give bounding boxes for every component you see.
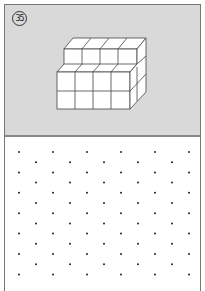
grid-dot bbox=[52, 171, 54, 173]
grid-dot bbox=[120, 212, 122, 214]
grid-dot bbox=[18, 253, 20, 255]
grid-dot bbox=[18, 192, 20, 194]
grid-dot bbox=[137, 182, 139, 184]
grid-dot bbox=[35, 202, 37, 204]
grid-dot bbox=[69, 263, 71, 265]
grid-dot bbox=[188, 151, 190, 153]
grid-dot bbox=[171, 263, 173, 265]
cube-figure bbox=[0, 0, 205, 291]
grid-dot bbox=[171, 161, 173, 163]
grid-dot bbox=[154, 253, 156, 255]
grid-dot bbox=[120, 233, 122, 235]
grid-dot bbox=[188, 171, 190, 173]
grid-dot bbox=[171, 182, 173, 184]
grid-dot bbox=[154, 171, 156, 173]
grid-dot bbox=[103, 263, 105, 265]
grid-dot bbox=[103, 161, 105, 163]
grid-dot bbox=[154, 273, 156, 275]
grid-dot bbox=[86, 273, 88, 275]
grid-dot bbox=[18, 233, 20, 235]
grid-dot bbox=[103, 182, 105, 184]
grid-dot bbox=[86, 253, 88, 255]
dot-grid bbox=[18, 151, 190, 275]
grid-dot bbox=[103, 202, 105, 204]
grid-dot bbox=[188, 273, 190, 275]
grid-dot bbox=[35, 222, 37, 224]
grid-dot bbox=[86, 171, 88, 173]
grid-dot bbox=[18, 171, 20, 173]
grid-dot bbox=[103, 222, 105, 224]
grid-dot bbox=[52, 192, 54, 194]
grid-dot bbox=[52, 233, 54, 235]
grid-dot bbox=[137, 202, 139, 204]
grid-dot bbox=[18, 273, 20, 275]
grid-dot bbox=[35, 161, 37, 163]
grid-dot bbox=[69, 243, 71, 245]
grid-dot bbox=[154, 192, 156, 194]
grid-dot bbox=[154, 151, 156, 153]
grid-dot bbox=[120, 273, 122, 275]
grid-dot bbox=[171, 202, 173, 204]
grid-dot bbox=[103, 243, 105, 245]
grid-dot bbox=[35, 263, 37, 265]
grid-dot bbox=[69, 222, 71, 224]
grid-dot bbox=[35, 243, 37, 245]
grid-dot bbox=[35, 182, 37, 184]
grid-dot bbox=[52, 151, 54, 153]
grid-dot bbox=[52, 253, 54, 255]
grid-dot bbox=[171, 222, 173, 224]
grid-dot bbox=[188, 233, 190, 235]
grid-dot bbox=[120, 171, 122, 173]
grid-dot bbox=[137, 222, 139, 224]
grid-dot bbox=[69, 161, 71, 163]
grid-dot bbox=[52, 212, 54, 214]
grid-dot bbox=[120, 253, 122, 255]
grid-dot bbox=[18, 151, 20, 153]
grid-dot bbox=[154, 233, 156, 235]
grid-dot bbox=[188, 192, 190, 194]
grid-dot bbox=[69, 202, 71, 204]
grid-dot bbox=[18, 212, 20, 214]
grid-dot bbox=[120, 151, 122, 153]
grid-dot bbox=[86, 192, 88, 194]
grid-dot bbox=[137, 161, 139, 163]
grid-dot bbox=[69, 182, 71, 184]
grid-dot bbox=[86, 212, 88, 214]
grid-dot bbox=[120, 192, 122, 194]
grid-dot bbox=[154, 212, 156, 214]
grid-dot bbox=[137, 263, 139, 265]
grid-dot bbox=[52, 273, 54, 275]
grid-dot bbox=[188, 212, 190, 214]
grid-dot bbox=[188, 253, 190, 255]
grid-dot bbox=[86, 233, 88, 235]
grid-dot bbox=[86, 151, 88, 153]
grid-dot bbox=[171, 243, 173, 245]
grid-dot bbox=[137, 243, 139, 245]
